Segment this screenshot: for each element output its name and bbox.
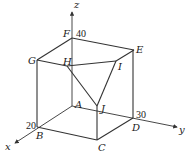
edge-c-d: [97, 118, 133, 140]
edge-h-e-top: [67, 61, 116, 66]
edge-i-j: [97, 61, 116, 106]
y-axis: [72, 106, 177, 127]
vertex-j-label: J: [99, 103, 106, 114]
edge-f-e: [72, 38, 134, 50]
vertex-g-label: G: [28, 55, 36, 66]
x-axis: [15, 106, 72, 143]
box-diagram: z y x F 40 E G H I A J 20 B 30 D C: [0, 0, 191, 158]
vertex-b-label: B: [35, 130, 43, 141]
z-axis-label: z: [73, 0, 80, 10]
edge-b-c: [37, 127, 97, 140]
vertex-d-label: D: [131, 122, 140, 133]
vertex-h-label: H: [62, 56, 72, 67]
vertex-i-label: I: [117, 61, 123, 72]
vertex-c-label: C: [98, 142, 106, 153]
z-value-label: 40: [76, 28, 86, 39]
y-axis-label: y: [178, 124, 185, 135]
vertex-e-label: E: [135, 44, 144, 55]
edge-i-e: [116, 50, 134, 61]
y-value-label: 30: [136, 109, 146, 120]
vertex-f-label: F: [62, 28, 71, 39]
vertex-a-label: A: [74, 99, 82, 110]
x-value-label: 20: [26, 120, 36, 131]
x-axis-label: x: [5, 141, 11, 152]
